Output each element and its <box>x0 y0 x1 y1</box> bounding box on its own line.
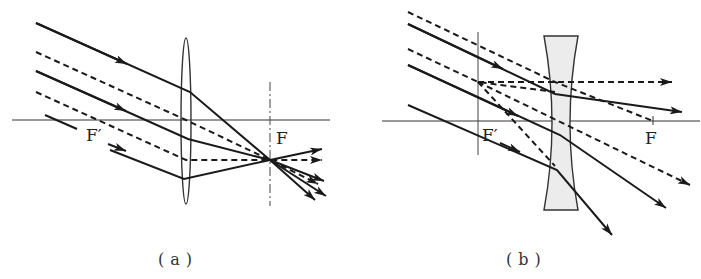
label-f-prime-a: F′ <box>86 127 102 144</box>
caption-b: (b) <box>506 250 547 269</box>
ray-solid-3 <box>110 149 322 179</box>
panel-a-convex-lens <box>12 23 330 206</box>
lens-diagram <box>0 0 701 279</box>
label-f-b: F <box>645 130 657 147</box>
ray-solid-3 <box>408 105 612 235</box>
ray-stub <box>45 115 77 129</box>
panel-b-concave-lens <box>382 12 700 235</box>
caption-a: (a) <box>158 250 198 269</box>
ray-dashed-2 <box>36 92 322 160</box>
label-f-a: F <box>276 130 288 147</box>
label-f-prime-b: F′ <box>482 127 498 144</box>
